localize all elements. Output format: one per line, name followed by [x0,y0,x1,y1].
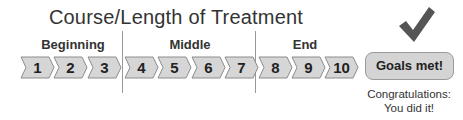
phase-label-end: End [265,37,345,52]
step-number: 9 [291,59,326,76]
step-number: 10 [324,59,359,76]
step-chevron-6: 6 [191,56,226,79]
step-number: 5 [157,59,192,76]
caption-line-2: You did it! [355,101,463,115]
checkmark-icon [396,4,436,44]
step-chevron-7: 7 [224,56,259,79]
step-number: 2 [53,59,88,76]
goals-met-box: Goals met! [365,52,454,80]
step-number: 6 [191,59,226,76]
step-chevron-5: 5 [157,56,192,79]
phase-divider-1 [122,31,123,93]
step-number: 4 [124,59,159,76]
step-number: 1 [20,59,55,76]
step-chevron-9: 9 [291,56,326,79]
step-chevron-10: 10 [324,56,359,79]
congratulations-caption: Congratulations: You did it! [355,87,463,115]
step-chevron-2: 2 [53,56,88,79]
phase-label-beginning: Beginning [28,37,118,52]
step-chevron-4: 4 [124,56,159,79]
diagram-title: Course/Length of Treatment [0,6,352,29]
phase-label-middle: Middle [145,37,235,52]
step-number: 7 [224,59,259,76]
step-chevron-1: 1 [20,56,55,79]
caption-line-1: Congratulations: [355,87,463,101]
step-chevron-3: 3 [87,56,122,79]
step-number: 8 [258,59,293,76]
step-chevron-8: 8 [258,56,293,79]
step-number: 3 [87,59,122,76]
